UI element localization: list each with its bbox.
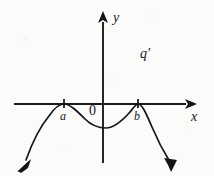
curve-label-q-prime: q' [140,47,150,61]
y-axis-arrowhead [98,11,108,23]
point-label-a: a [60,110,66,122]
point-label-b: b [134,110,140,122]
graph-canvas [0,0,214,176]
graph-figure: y x 0 a b q' [0,0,214,176]
y-axis-label: y [113,11,119,25]
curve-right-arrowhead [164,158,177,172]
x-axis-label: x [191,110,197,124]
curve-q-prime [26,104,170,162]
curve-left-arrowhead-fill [18,159,31,173]
x-axis-arrowhead [185,99,197,109]
origin-label: 0 [89,104,96,118]
